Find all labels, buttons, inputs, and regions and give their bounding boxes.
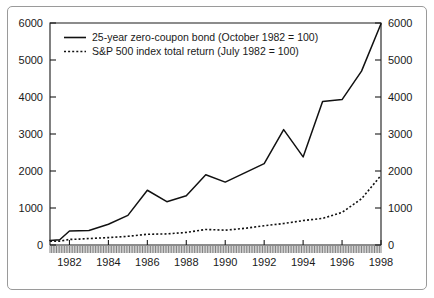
- legend-label-1: S&P 500 index total return (July 1982 = …: [92, 45, 299, 57]
- y-tick-label-left: 5000: [19, 54, 43, 66]
- x-tick-label: 1996: [330, 256, 354, 268]
- x-tick-label: 1984: [96, 256, 120, 268]
- y-tick-label-left: 3000: [19, 128, 43, 140]
- x-tick-label: 1998: [369, 256, 393, 268]
- y-axis-left-labels: 0100020003000400050006000: [19, 17, 43, 251]
- x-axis-labels: 198219841986198819901992199419961998: [57, 256, 393, 268]
- y-tick-label-left: 0: [37, 239, 43, 251]
- y-tick-label-left: 4000: [19, 91, 43, 103]
- x-axis-minor-ticks: [50, 246, 381, 253]
- y-tick-label-left: 1000: [19, 202, 43, 214]
- y-tick-label-right: 6000: [388, 17, 412, 29]
- x-tick-label: 1990: [213, 256, 237, 268]
- y-tick-label-left: 6000: [19, 17, 43, 29]
- y-tick-label-right: 2000: [388, 165, 412, 177]
- y-tick-label-right: 0: [388, 239, 394, 251]
- y-axis-right-labels: 0100020003000400050006000: [388, 17, 412, 251]
- x-tick-label: 1988: [174, 256, 198, 268]
- y-tick-label-right: 3000: [388, 128, 412, 140]
- y-tick-label-right: 5000: [388, 54, 412, 66]
- x-tick-label: 1982: [57, 256, 81, 268]
- y-tick-label-left: 2000: [19, 165, 43, 177]
- legend-label-0: 25-year zero-coupon bond (October 1982 =…: [92, 31, 318, 43]
- line-chart: 0100020003000400050006000 01000200030004…: [0, 0, 434, 298]
- x-tick-label: 1992: [252, 256, 276, 268]
- figure-container: 0100020003000400050006000 01000200030004…: [0, 0, 434, 298]
- y-tick-label-right: 4000: [388, 91, 412, 103]
- x-tick-label: 1986: [135, 256, 159, 268]
- x-tick-label: 1994: [291, 256, 315, 268]
- y-tick-label-right: 1000: [388, 202, 412, 214]
